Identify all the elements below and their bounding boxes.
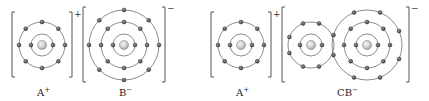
- charge-plus: +: [74, 9, 82, 19]
- right-bracket: [406, 7, 409, 82]
- atom-a-left: [17, 20, 67, 70]
- atom-c: [287, 21, 334, 68]
- nucleus: [38, 41, 47, 50]
- left-bracket: [83, 7, 86, 82]
- nucleus: [307, 41, 316, 50]
- species-a-plus-right: +: [211, 9, 281, 77]
- atom-b-bonded: [332, 10, 403, 80]
- label-cb-minus: CB−: [337, 86, 358, 98]
- nucleus: [237, 41, 246, 50]
- charge-minus: −: [167, 3, 175, 13]
- left-bracket: [211, 12, 214, 77]
- species-cb-minus: −: [282, 3, 419, 82]
- atom-a-right: [216, 20, 266, 70]
- ionic-bonding-diagram: + −: [0, 0, 429, 101]
- left-bracket: [12, 12, 15, 77]
- right-bracket: [69, 12, 72, 77]
- label-a-plus-right: A+: [235, 86, 249, 98]
- nucleus: [363, 41, 372, 50]
- charge-minus: −: [411, 3, 419, 13]
- label-b-minus: B−: [119, 86, 132, 98]
- right-bracket: [162, 7, 165, 82]
- species-b-minus: −: [83, 3, 175, 82]
- right-bracket: [268, 12, 271, 77]
- charge-plus: +: [273, 9, 281, 19]
- electrons: [287, 21, 324, 68]
- species-a-plus-left: +: [12, 9, 82, 77]
- left-bracket: [282, 7, 285, 82]
- atom-b: [87, 8, 161, 82]
- label-a-plus-left: A+: [36, 86, 50, 98]
- nucleus: [120, 41, 129, 50]
- labels: A+ B− A+ CB−: [36, 86, 358, 98]
